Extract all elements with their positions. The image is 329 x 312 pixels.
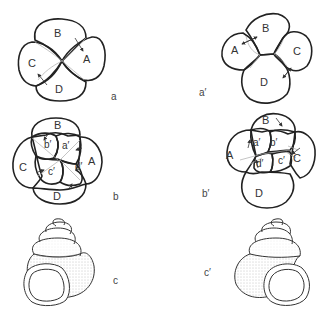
cell-label-C: C: [293, 46, 301, 57]
cell-label-d-prime: d′: [256, 159, 263, 169]
cell-label-a-prime: a′: [62, 141, 69, 151]
cell-label-B: B: [54, 120, 61, 131]
cell-label-C: C: [19, 162, 27, 173]
cell-label-b-prime: b′: [44, 140, 51, 150]
panel-c-prime-sinistral-shell: [235, 219, 310, 306]
cell-D: [242, 172, 294, 208]
panel-label-c-prime: c′: [204, 268, 211, 278]
cell-label-D: D: [260, 77, 268, 88]
cell-label-B: B: [262, 115, 269, 126]
cell-label-a-prime: a′: [253, 138, 260, 148]
panel-label-a: a: [111, 92, 117, 102]
cell-label-B: B: [54, 28, 61, 39]
cell-label-A: A: [83, 54, 90, 65]
cell-label-D: D: [255, 188, 263, 199]
cell-label-c-prime: c′: [278, 156, 285, 166]
cell-C: [18, 42, 62, 86]
cell-label-A: A: [88, 156, 95, 167]
cell-B: [246, 14, 289, 55]
panel-label-b: b: [113, 192, 119, 202]
cell-label-C: C: [28, 58, 36, 69]
panel-c-dextral-shell: [24, 219, 94, 306]
cell-label-A: A: [226, 150, 233, 161]
panel-label-c: c: [113, 276, 118, 286]
cell-label-d-prime: d′: [75, 162, 82, 172]
cell-label-c-prime: c′: [48, 167, 55, 177]
cell-label-B: B: [262, 23, 269, 34]
cell-label-D: D: [53, 191, 61, 202]
cell-B: [35, 19, 86, 61]
panel-b-prime-eight-cell-sinistral: [227, 114, 315, 208]
panel-label-a-prime: a′: [199, 88, 206, 98]
cell-label-C: C: [293, 153, 301, 164]
aperture: [264, 264, 310, 306]
cell-label-b-prime: b′: [270, 138, 277, 148]
aperture: [24, 264, 70, 306]
cell-label-A: A: [231, 45, 238, 56]
cell-C: [13, 137, 42, 188]
cell-label-D: D: [55, 84, 63, 95]
panel-label-b-prime: b′: [202, 189, 209, 199]
